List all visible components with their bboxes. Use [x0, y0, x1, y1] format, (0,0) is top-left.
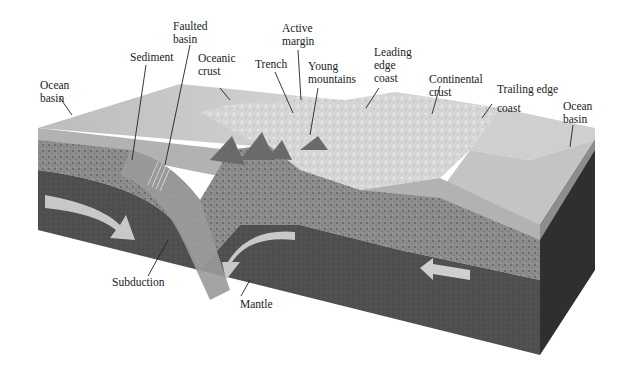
plate-tectonics-diagram: Ocean basin Sediment Faulted basin Ocean…: [0, 0, 626, 374]
label-ocean-basin-left: Ocean basin: [40, 79, 69, 105]
label-trench: Trench: [255, 58, 287, 71]
label-subduction: Subduction: [112, 276, 164, 289]
label-sediment: Sediment: [130, 51, 173, 64]
block-diagram-graphic: [0, 0, 626, 374]
label-faulted-basin: Faulted basin: [173, 20, 208, 46]
label-oceanic-crust: Oceanic crust: [198, 52, 236, 78]
label-continental-crust: Continental crust: [429, 73, 483, 99]
label-mantle: Mantle: [240, 298, 273, 311]
label-young-mountains: Young mountains: [308, 60, 356, 86]
label-trailing-edge-coast: Trailing edge coast: [497, 80, 558, 118]
label-ocean-basin-right: Ocean basin: [563, 100, 592, 126]
label-active-margin: Active margin: [282, 22, 314, 48]
label-leading-edge-coast: Leading edge coast: [374, 46, 412, 85]
